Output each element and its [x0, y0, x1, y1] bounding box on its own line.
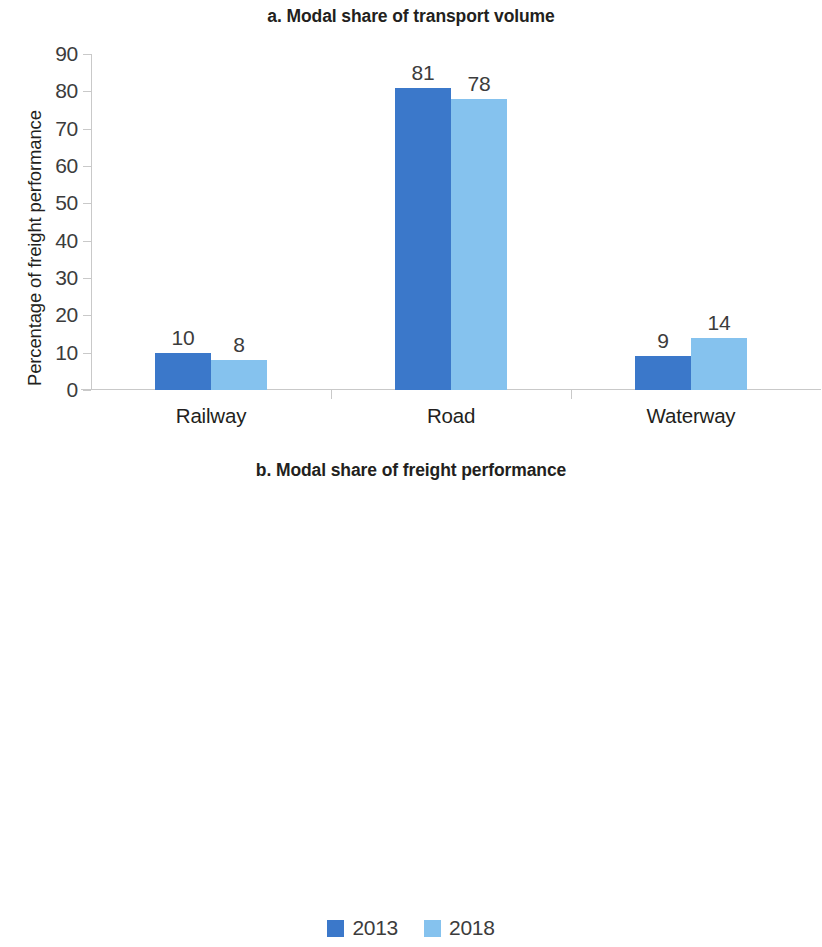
chart-a-group-road: 8178Road [331, 54, 571, 390]
chart-a-y-tick [83, 315, 91, 316]
legend-swatch-2018-icon [424, 920, 441, 937]
legend-label-2018: 2018 [449, 916, 495, 940]
chart-a-y-tick [83, 129, 91, 130]
chart-a-bar-value-road-2013: 81 [412, 61, 435, 85]
chart-a-y-tick-label: 10 [55, 341, 78, 365]
chart-a-bar-road-2018[interactable]: 78 [451, 99, 507, 390]
chart-a-y-tick-label: 90 [55, 42, 78, 66]
chart-a-y-tick [83, 241, 91, 242]
chart-a-group-waterway: 914Waterway [571, 54, 811, 390]
chart-a-y-tick-label: 20 [55, 303, 78, 327]
chart-a-y-tick [83, 390, 91, 391]
chart-a-bar-value-waterway-2013: 9 [657, 329, 668, 353]
chart-a-y-tick [83, 353, 91, 354]
chart-a-y-tick-label: 0 [67, 378, 78, 402]
chart-a-y-tick-label: 30 [55, 266, 78, 290]
chart-a-bar-value-road-2018: 78 [468, 72, 491, 96]
chart-a-x-label-railway: Railway [176, 404, 246, 428]
chart-a-category-separator [331, 390, 332, 399]
chart-a-y-tick-label: 40 [55, 229, 78, 253]
chart-a-bar-railway-2018[interactable]: 8 [211, 360, 267, 390]
chart-panel-b: b. Modal share of freight performance Pe… [0, 452, 822, 902]
chart-panel-a: a. Modal share of transport volume Perce… [0, 0, 822, 440]
chart-a-bar-waterway-2013[interactable]: 9 [635, 356, 691, 390]
legend-item-2013: 2013 [327, 916, 398, 940]
chart-a-y-tick-label: 70 [55, 117, 78, 141]
legend-swatch-2013-icon [327, 920, 344, 937]
chart-a-category-separator [571, 390, 572, 399]
legend-label-2013: 2013 [352, 916, 398, 940]
chart-b-title: b. Modal share of freight performance [0, 460, 822, 481]
chart-a-y-tick-label: 80 [55, 79, 78, 103]
legend-item-2018: 2018 [424, 916, 495, 940]
chart-a-y-tick [83, 278, 91, 279]
chart-a-plot-area: 0102030405060708090108Railway8178Road914… [91, 54, 811, 390]
chart-a-y-tick [83, 91, 91, 92]
chart-a-y-tick-label: 60 [55, 154, 78, 178]
chart-a-bar-railway-2013[interactable]: 10 [155, 353, 211, 390]
chart-a-y-tick [83, 166, 91, 167]
chart-a-y-tick [83, 203, 91, 204]
chart-a-group-railway: 108Railway [91, 54, 331, 390]
chart-a-y-tick [83, 54, 91, 55]
chart-a-x-label-road: Road [427, 404, 475, 428]
chart-a-x-label-waterway: Waterway [647, 404, 736, 428]
chart-legend: 2013 2018 [0, 916, 822, 940]
chart-a-title: a. Modal share of transport volume [0, 6, 822, 27]
chart-a-y-tick-label: 50 [55, 191, 78, 215]
chart-a-bar-road-2013[interactable]: 81 [395, 88, 451, 390]
chart-a-bar-waterway-2018[interactable]: 14 [691, 338, 747, 390]
chart-a-y-axis-title: Percentage of freight performance [24, 110, 46, 386]
chart-a-bar-value-waterway-2018: 14 [708, 311, 731, 335]
chart-a-bar-value-railway-2018: 8 [233, 333, 244, 357]
chart-a-bar-value-railway-2013: 10 [172, 326, 195, 350]
